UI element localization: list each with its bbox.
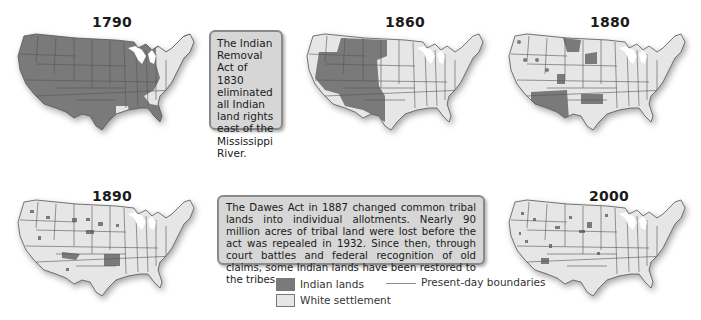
white-settlement-swatch bbox=[276, 294, 295, 307]
map-year-1790: 1790 bbox=[82, 14, 142, 30]
map-year-1880: 1880 bbox=[580, 14, 640, 30]
legend-item-indian-lands: Indian lands bbox=[276, 276, 391, 292]
map-year-1860: 1860 bbox=[375, 14, 435, 30]
map-1860 bbox=[305, 30, 490, 142]
map-1790 bbox=[16, 30, 201, 142]
boundary-line-icon bbox=[386, 283, 416, 284]
legend-label-white-settlement: White settlement bbox=[300, 294, 391, 306]
legend-label-boundaries: Present-day boundaries bbox=[421, 276, 546, 288]
map-2000 bbox=[507, 196, 692, 308]
legend-item-white-settlement: White settlement bbox=[276, 292, 391, 308]
indian-removal-act-callout: The Indian Removal Act of 1830 eliminate… bbox=[209, 30, 283, 130]
legend-label-indian-lands: Indian lands bbox=[300, 278, 364, 290]
map-legend: Indian lands White settlement Present-da… bbox=[276, 276, 391, 308]
indian-lands-swatch bbox=[276, 278, 295, 291]
dawes-act-callout: The Dawes Act in 1887 changed common tri… bbox=[217, 195, 485, 265]
map-1890 bbox=[16, 196, 201, 308]
map-1880 bbox=[507, 30, 692, 142]
